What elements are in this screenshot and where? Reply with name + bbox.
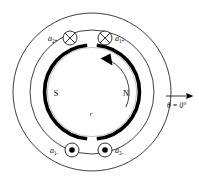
radius-label: r [90, 110, 93, 118]
conductor-a1-plus [98, 31, 112, 45]
conductor-label-a1-plus: a1+ [115, 34, 125, 44]
rotation-arrow-arc [110, 61, 129, 108]
conductor-label-a2-plus: a2+ [48, 34, 58, 44]
conductor-a2-plus [63, 31, 77, 45]
stator-outer-circle [13, 13, 171, 171]
pole-label-north: N [123, 88, 129, 98]
conductor-label-a2-plus-sub: 2+ [52, 38, 58, 44]
conductor-a2-minus [98, 143, 112, 157]
dot-icon [69, 147, 75, 153]
rotation-arrow-head [101, 54, 113, 66]
theta-axis-arrowhead [186, 93, 194, 99]
rotor-ring-left [45, 45, 88, 139]
dot-icon [102, 147, 108, 153]
pole-label-south: S [54, 88, 59, 98]
theta-axis-label: θ = 0° [167, 101, 186, 110]
theta-reference-axis [166, 93, 194, 99]
machine-cross-section-diagram: a2+ a1+ a1- a2- S N r [0, 0, 199, 181]
conductor-label-a1-plus-sub: 1+ [119, 38, 125, 44]
conductor-label-a1-minus-sub: 1- [54, 150, 59, 156]
conductor-label-a1-minus: a1- [50, 146, 59, 156]
conductor-a1-minus [65, 143, 79, 157]
stator-bore-circle [30, 30, 154, 154]
conductor-label-a2-minus-sub: 2- [119, 150, 124, 156]
